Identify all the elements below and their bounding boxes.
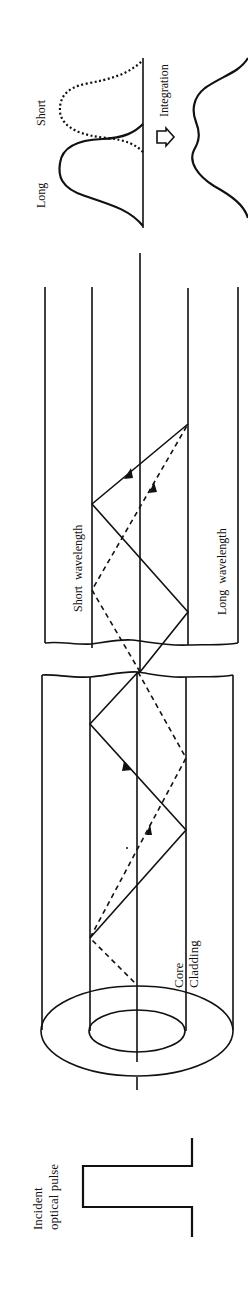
cladding-label: Cladding <box>186 940 201 988</box>
speck <box>126 847 128 849</box>
core-label: Core <box>171 963 186 989</box>
ray-arrowhead-icon <box>122 761 132 771</box>
fiber-lower-segment <box>41 672 233 1090</box>
output-pulses <box>59 58 248 228</box>
long-wavelength-pulse <box>59 124 143 226</box>
ray-arrowhead-icon <box>124 468 133 479</box>
long-wavelength-ray-lower <box>90 672 186 938</box>
long-wavelength-label: Long wavelength <box>215 528 229 615</box>
fiber-break-upper <box>45 640 238 645</box>
integration-arrow-icon <box>157 128 174 146</box>
output-short-label: Short <box>34 99 48 126</box>
short-wavelength-label: Short wavelength <box>71 525 85 612</box>
fiber-dispersion-diagram: Incident optical pulse Core Cladding Sho… <box>0 0 248 1312</box>
incident-pulse <box>83 1138 192 1237</box>
integration-label: Integration <box>157 64 171 117</box>
short-wavelength-ray-lower <box>90 672 186 985</box>
incident-label-line1: Incident <box>30 1187 45 1230</box>
integrated-output-pulse <box>192 58 248 218</box>
ray-arrowhead-icon <box>146 824 152 835</box>
output-long-label: Long <box>34 183 48 208</box>
incident-label-line2: optical pulse <box>46 1164 61 1230</box>
incident-pulse-shape <box>83 1138 192 1237</box>
